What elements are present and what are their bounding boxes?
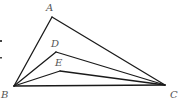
segment-ec [60,71,165,85]
label-e: E [54,57,63,68]
label-c: C [170,89,178,100]
label-a: A [45,2,53,13]
scan-artifacts [0,40,2,59]
artifact-mark [0,57,2,59]
label-d: D [50,38,59,49]
triangle-edges [14,17,165,86]
segment-bc [14,85,165,86]
segment-bd [14,52,56,86]
label-b: B [0,89,8,100]
artifact-mark [0,40,2,42]
segment-dc [56,52,165,85]
geometry-diagram: A D E B C [0,0,182,103]
segment-ac [52,17,165,85]
